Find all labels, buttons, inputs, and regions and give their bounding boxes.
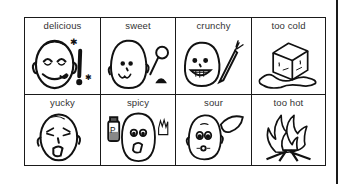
cell-delicious[interactable]: delicious ✱ ✱	[25, 18, 101, 95]
spicy-face-pepper-icon: P	[103, 108, 173, 163]
cell-too-hot[interactable]: too hot	[252, 95, 325, 165]
melting-ice-cube-icon	[254, 31, 323, 92]
yucky-face-icon	[27, 108, 98, 163]
cell-label: sour	[176, 97, 251, 108]
cell-yucky[interactable]: yucky	[25, 95, 101, 165]
sweet-face-lollipop-icon	[103, 31, 173, 92]
cell-label: too cold	[252, 20, 325, 31]
crunchy-face-carrot-icon	[178, 31, 249, 92]
cell-sweet[interactable]: sweet	[101, 18, 176, 95]
cell-spicy[interactable]: spicy P	[101, 95, 176, 165]
cell-label: sweet	[101, 20, 175, 31]
page-edge-divider	[336, 0, 338, 184]
cell-label: crunchy	[176, 20, 251, 31]
cell-label: too hot	[252, 97, 325, 108]
food-taste-communication-board: delicious ✱ ✱ sweet	[24, 17, 326, 166]
sour-face-lemon-icon	[178, 108, 249, 163]
cell-label: delicious	[25, 20, 100, 31]
svg-text:✱: ✱	[70, 37, 78, 47]
cell-too-cold[interactable]: too cold	[252, 18, 325, 95]
delicious-face-icon: ✱ ✱	[27, 31, 98, 92]
cell-label: yucky	[25, 97, 100, 108]
fire-icon	[254, 108, 323, 163]
svg-text:✱: ✱	[85, 73, 92, 82]
cell-label: spicy	[101, 97, 175, 108]
cell-sour[interactable]: sour	[176, 95, 252, 165]
cell-crunchy[interactable]: crunchy	[176, 18, 252, 95]
svg-text:P: P	[110, 126, 116, 135]
